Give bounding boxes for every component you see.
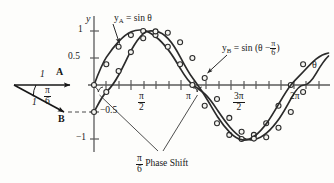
sine-phase-shift-figure: y θ 1 0.5 −0.5 −1 π 2 π 3π 2 2π yA = sin… bbox=[0, 0, 334, 183]
curve-b-subscript: B bbox=[227, 47, 232, 54]
phase-shift-leaders bbox=[100, 95, 198, 151]
vector-b-label: B bbox=[58, 114, 65, 124]
curve-a-equation-label: yA = sin θ bbox=[114, 14, 152, 25]
x-tick-label-2pi: 2π bbox=[290, 92, 300, 102]
fraction-pi-6-angle: π 6 bbox=[44, 86, 51, 106]
fraction-3pi-2: 3π 2 bbox=[233, 92, 245, 112]
y-axis-label: y bbox=[86, 14, 90, 24]
curve-a-expression: = sin θ bbox=[126, 13, 152, 23]
y-tick-label-minus1: −1 bbox=[76, 133, 86, 143]
vector-b-arrow bbox=[14, 85, 64, 112]
y-tick-label-minus0point5: −0.5 bbox=[100, 106, 117, 116]
vector-b-magnitude-label: 1 bbox=[32, 98, 37, 108]
x-tick-label-pi: π bbox=[186, 92, 191, 102]
curve-b-expression-close: ) bbox=[276, 43, 279, 53]
phase-leader-right bbox=[163, 95, 198, 151]
phase-shift-text: Phase Shift bbox=[145, 158, 188, 168]
vector-diagram-group bbox=[14, 85, 70, 112]
y-tick-label-1: 1 bbox=[78, 25, 83, 35]
phase-bracket-origin bbox=[94, 87, 103, 92]
x-tick-label-3pi-over-2: 3π 2 bbox=[233, 92, 245, 112]
phase-leader-left bbox=[100, 95, 159, 151]
curve-b-label-leader bbox=[208, 55, 228, 73]
curve-b-equation-label: yB = sin (θ − π 6 ) bbox=[222, 40, 280, 57]
y-tick-label-0point5: 0.5 bbox=[68, 52, 80, 62]
vector-angle-arc bbox=[33, 85, 36, 96]
vector-a-magnitude-label: 1 bbox=[40, 70, 45, 80]
x-axis-label: θ bbox=[312, 60, 317, 70]
vector-angle-label: π 6 bbox=[44, 86, 51, 106]
curve-a-subscript: A bbox=[119, 17, 124, 24]
fraction-pi-6-phase-shift: π 6 bbox=[136, 154, 143, 174]
vector-a-label: A bbox=[56, 67, 63, 77]
phase-shift-caption: π 6 Phase Shift bbox=[136, 154, 188, 174]
curve-b-expression: = sin (θ − bbox=[234, 43, 271, 53]
fraction-pi-2: π 2 bbox=[138, 92, 145, 112]
curve-a-label-leader bbox=[113, 24, 120, 44]
x-tick-label-pi-over-2: π 2 bbox=[138, 92, 145, 112]
